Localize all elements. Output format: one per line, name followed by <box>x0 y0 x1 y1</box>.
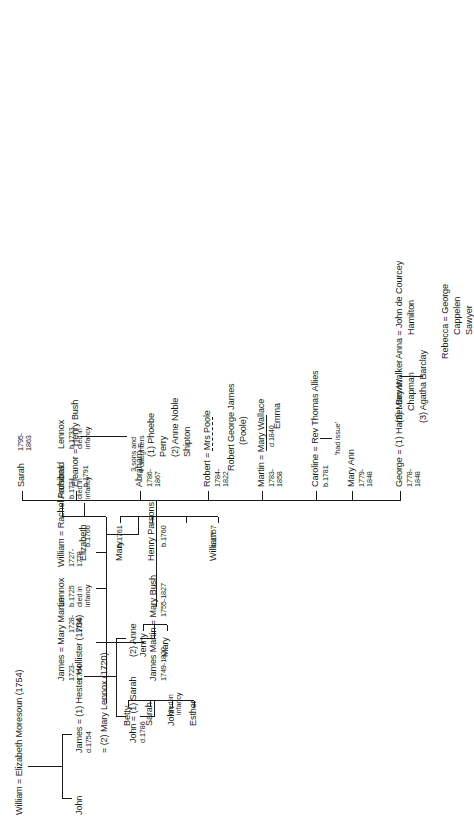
line-gen5-tick-eleanor <box>76 491 77 501</box>
gen3-marymartin-dates: 1728- 1796 <box>68 615 84 633</box>
gen5-sarah-name: Sarah <box>16 463 26 487</box>
gen6-martin-child-emma: Emma <box>272 403 282 429</box>
gen4-child-john-note: died in infancy <box>167 693 183 715</box>
line-martin-stem <box>266 415 267 451</box>
gen3-james-marymartin-label: James = Mary Martin <box>56 598 66 681</box>
gen4-anne-child-jenny: Jenny <box>138 633 148 657</box>
gen5-george-marriage2: (2) Mary Walker <box>394 360 404 423</box>
gen5-maryann-dates: 1779- 1848 <box>358 469 374 487</box>
line-lennox-child-james <box>96 642 106 643</box>
line-gen5-tick-george <box>400 491 401 501</box>
gen6-anna-name-b: Hamilton <box>406 300 416 335</box>
line-eleanor-joint <box>126 436 127 437</box>
gen5-abraham-marriage2: (2) Anne Noble <box>170 398 180 457</box>
gen6-robert-child-surname: (Poole) <box>238 416 248 445</box>
gen5-abraham-marriage1b: Perry <box>158 436 168 457</box>
line-gen5-tick-maryann <box>352 491 353 501</box>
gen3-lennox1-dates: b.1725 died in infancy <box>68 585 93 607</box>
gen5-george-marriage2b: Chapman <box>406 372 416 411</box>
line-to-anne <box>116 638 126 639</box>
gen6-rebecca-name-b: Cappelen <box>452 297 462 335</box>
gen4-child-esther: Esther <box>188 700 198 726</box>
gen4-child-betty: Betty <box>122 706 132 726</box>
line-gen5-tick-sarah <box>22 491 23 501</box>
line-lennox-child-lennox1 <box>96 588 106 589</box>
line-william-children-spine <box>120 516 218 517</box>
gen5-robert-dates: 1784- 1822 <box>214 469 230 487</box>
gen5-caroline-name: Caroline = Rev Thomas Allies <box>310 370 320 487</box>
gen5-abraham-marriage1: (1) Phoebe <box>146 413 156 457</box>
line-gen5-tick-robert <box>208 491 209 501</box>
gen2-james-dates: d.1754 <box>85 731 93 753</box>
line-george-children-stem <box>400 376 422 377</box>
line-root-bar <box>62 735 63 799</box>
gen5-martin-dates: 1783- 1858 <box>268 469 284 487</box>
line-gen5-sibling-spine <box>22 500 400 501</box>
line-root-stem <box>28 766 62 767</box>
gen5-maryann-name: Mary Ann <box>346 449 356 487</box>
gen3-lennox1-label: Lennox <box>56 578 66 607</box>
line-root-to-john <box>62 798 72 799</box>
gen5-abraham-name: Abraham = <box>134 443 144 487</box>
line-john-sarah-children-spine <box>128 700 194 701</box>
line-lennox-child-william <box>96 552 106 553</box>
line-anne-child-mary <box>143 625 144 631</box>
root-couple-label: William = Elizabeth Moresoun (1754) <box>14 670 24 815</box>
gen4-wchild-elizabeth-dates: b.1766 <box>84 525 92 547</box>
gen5-eleanor-dates: b.1791 <box>82 465 90 487</box>
line-jamesmartin-drop <box>106 642 144 643</box>
gen2-james-label: James = (1) Hester Hollister (1704) <box>74 615 84 753</box>
line-gen5-tick-martin <box>262 491 263 501</box>
line-wchild-mary <box>186 517 187 523</box>
line-wchild-elizabeth <box>218 517 219 523</box>
gen5-caroline-dates: b.1781 <box>322 465 330 487</box>
line-anne-child-jenny <box>167 625 168 631</box>
line-eleanor-stem <box>80 436 126 437</box>
gen4-marybush-dates: 1755-1827 <box>160 583 168 617</box>
gen3-anne-label: (2) Anne <box>128 623 138 657</box>
line-root-to-james <box>62 734 72 735</box>
gen6-robert-child: Robert George James <box>226 383 236 471</box>
gen5-abraham-dates: 1786- 1867 <box>146 469 162 487</box>
gen5-george-dates: 1778- 1848 <box>406 469 422 487</box>
gen3-lennox2-label: Lennox <box>56 420 66 449</box>
line-james-hester-stem <box>84 676 116 677</box>
gen6-anna-name: Anna = John de Courcey <box>394 261 404 359</box>
line-jamesmartin-marriage <box>156 501 157 607</box>
line-george-children-joint <box>422 376 423 377</box>
gen4-wchild-mary-dates: b.1761 <box>116 525 124 547</box>
gen4-wchild-william-dates: b.1757 <box>210 525 218 547</box>
line-james-lennox-bar <box>106 517 107 703</box>
gen5-sarah-dates: 1795- 1863 <box>17 433 33 451</box>
gen4-child-sarah: Sarah <box>144 702 154 726</box>
gen6-rebecca-name-c: Sawyer <box>464 305 474 335</box>
line-james-hester-bar <box>116 639 117 717</box>
line-robert-illegitimate-dashed <box>212 417 213 451</box>
line-caroline-stem <box>320 438 332 439</box>
gen5-robert-name: Robert = Mrs Poole <box>202 410 212 487</box>
line-william-children-bar <box>138 517 139 535</box>
gen5-abraham-marriage2b: Shipton <box>182 427 192 457</box>
line-wchild-william <box>120 517 121 523</box>
line-gen5-tick-caroline <box>316 491 317 501</box>
line-gen5-tick-abraham <box>140 491 141 501</box>
gen4-wchild-henry-name: Henry Parsons <box>146 502 156 561</box>
gen4-wchild-henry-dates: b.1760 <box>160 525 168 547</box>
gen6-caroline-issue: 'had issue' <box>334 422 342 455</box>
gen3-archibald-label: Archibald <box>56 462 66 499</box>
line-lennox-arch-archibald <box>84 503 85 517</box>
gen4-jamesmartin-dates: 1749-1822 <box>160 647 168 681</box>
gen2-james-marriage2: = (2) Mary Lennox (1720) <box>99 653 109 753</box>
gen3-james-dates: 1723- 1764 <box>68 663 84 681</box>
gen5-martin-name: Martin = Mary Wallace <box>256 399 266 487</box>
gen6-rebecca-name: Rebecca = George <box>440 284 450 359</box>
gen5-eleanor-name: Eleanor = Henry Bush <box>70 400 80 487</box>
gen5-george-marriage3: (3) Agatha Barclay <box>418 350 428 423</box>
gen2-john-label: John <box>74 796 84 815</box>
